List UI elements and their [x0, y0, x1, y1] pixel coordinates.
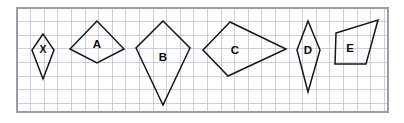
- quadrilateral-e: [335, 20, 378, 64]
- kite-c-label: C: [231, 44, 239, 56]
- kite-d-label: D: [304, 44, 312, 56]
- quadrilateral-e-label: E: [346, 42, 354, 54]
- kite-b-label: B: [159, 51, 167, 63]
- kite-x: [32, 34, 54, 79]
- shapes-diagram: XABCDE: [0, 0, 404, 123]
- kite-b: [136, 21, 190, 105]
- figure-container: XABCDE: [0, 0, 404, 123]
- grid-lines: [17, 8, 388, 112]
- panel-border: [17, 8, 388, 112]
- kite-x-label: X: [39, 43, 46, 55]
- kite-a-label: A: [93, 38, 101, 50]
